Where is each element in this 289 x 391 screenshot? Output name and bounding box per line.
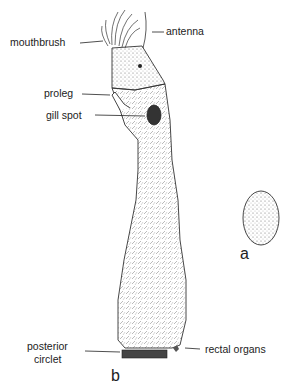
larva-diagram: mouthbrush antenna proleg gill spot post… <box>0 0 289 391</box>
label-mouthbrush: mouthbrush <box>10 37 65 48</box>
gill-spot-icon <box>147 105 161 125</box>
label-proleg: proleg <box>44 88 73 99</box>
egg-icon <box>243 191 279 245</box>
head-icon <box>112 46 165 90</box>
figure-letter-b: b <box>111 368 120 384</box>
posterior-circlet-icon <box>122 350 167 358</box>
antenna-icon <box>143 12 146 48</box>
label-circlet: circlet <box>34 354 61 365</box>
label-posterior: posterior <box>27 341 68 352</box>
body-icon <box>112 84 186 348</box>
label-rectal-organs: rectal organs <box>205 344 266 355</box>
label-antenna: antenna <box>166 26 204 37</box>
figure-letter-a: a <box>240 246 249 262</box>
label-gill-spot: gill spot <box>46 110 82 121</box>
larva-drawing <box>0 0 289 391</box>
mouthbrush-icon <box>102 10 140 48</box>
